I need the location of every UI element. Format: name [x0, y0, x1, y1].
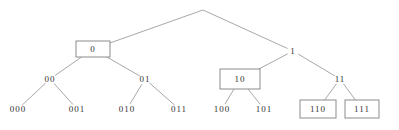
node-label: 00	[45, 74, 56, 84]
node-label: 100	[214, 104, 231, 114]
edge-n00-n000	[22, 83, 45, 105]
edge-n1-n11	[298, 54, 335, 76]
tree-node-101: 101	[256, 104, 273, 114]
node-label: 011	[171, 104, 187, 114]
node-label: 11	[335, 74, 346, 84]
node-label: 101	[256, 104, 273, 114]
node-label: 001	[69, 104, 86, 114]
binary-tree-diagram: 0100011011000001010011100101110111	[0, 0, 399, 130]
node-label: 000	[10, 104, 27, 114]
edge-n01-n010	[130, 84, 142, 104]
node-label: 0	[90, 44, 96, 54]
node-label: 110	[310, 104, 326, 114]
tree-node-0: 0	[76, 41, 110, 57]
tree-node-100: 100	[214, 104, 231, 114]
tree-node-1: 1	[290, 46, 296, 56]
tree-node-010: 010	[119, 104, 136, 114]
tree-nodes: 0100011011000001010011100101110111	[10, 41, 379, 118]
tree-edges	[22, 10, 356, 105]
node-label: 10	[235, 74, 246, 84]
edge-root-n0	[101, 10, 203, 46]
edge-n11-n111	[344, 84, 357, 102]
tree-node-10: 10	[220, 69, 260, 89]
tree-node-01: 01	[140, 74, 151, 84]
tree-node-000: 000	[10, 104, 27, 114]
tree-node-11: 11	[335, 74, 346, 84]
edge-root-n1	[203, 10, 288, 49]
tree-node-001: 001	[69, 104, 86, 114]
edge-n00-n001	[54, 83, 73, 104]
node-label: 1	[290, 46, 296, 56]
edge-n11-n110	[323, 84, 336, 102]
tree-node-110: 110	[300, 100, 336, 118]
edge-n01-n011	[149, 83, 174, 105]
node-label: 111	[354, 104, 370, 114]
tree-node-111: 111	[345, 100, 379, 118]
node-label: 01	[140, 74, 151, 84]
tree-node-00: 00	[45, 74, 56, 84]
node-label: 010	[119, 104, 136, 114]
tree-node-011: 011	[171, 104, 187, 114]
